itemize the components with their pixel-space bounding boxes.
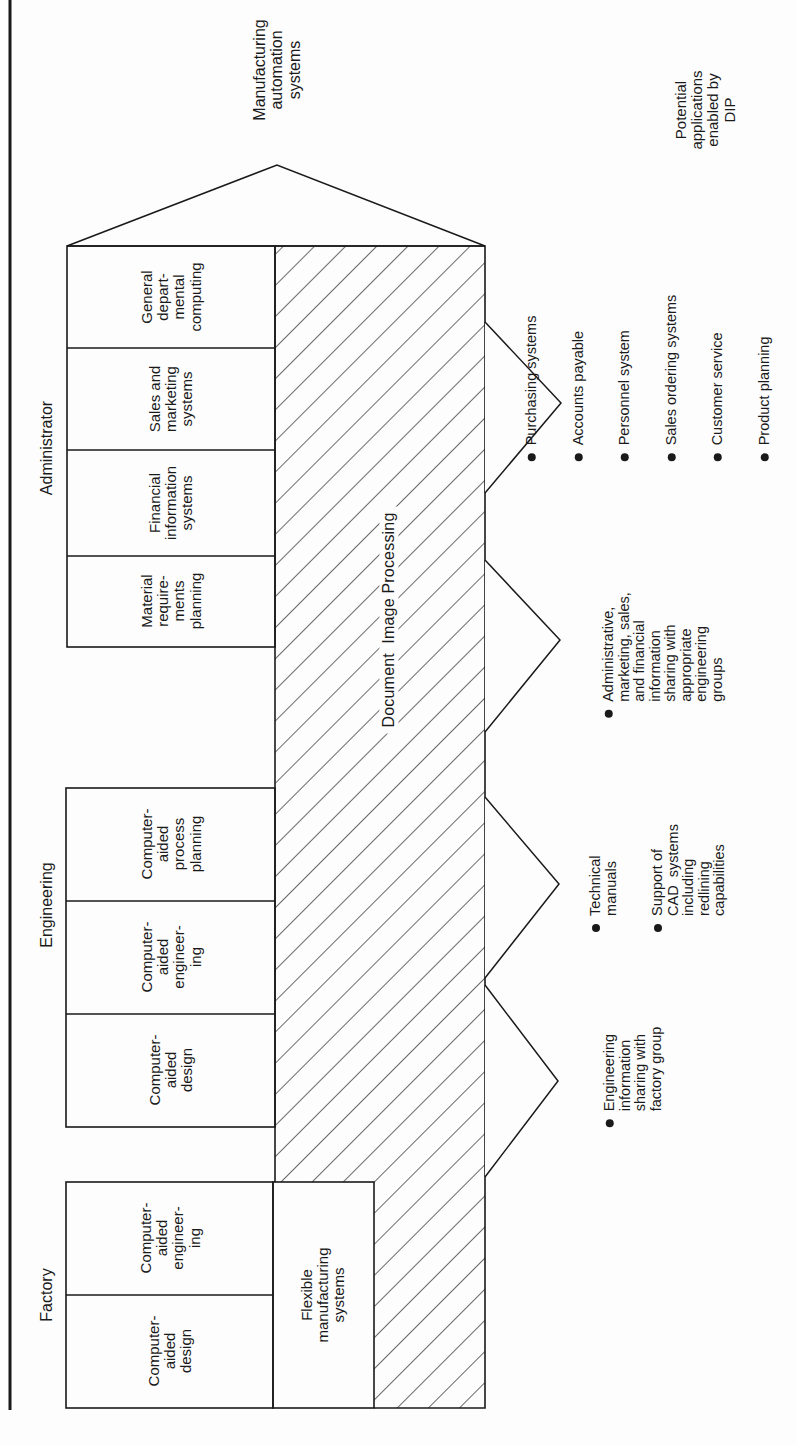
- box-financial-information-systems: Financial information systems: [147, 466, 196, 540]
- group-label-administrator: Administrator: [38, 401, 55, 495]
- bullet-icon: [654, 924, 662, 932]
- list-item: Engineering information sharing with fac…: [602, 1027, 664, 1128]
- list-item: Technical manuals: [588, 824, 619, 932]
- bullet-icon: [606, 1119, 614, 1127]
- bullet-icon: [528, 453, 536, 461]
- bullet-icon: [714, 453, 722, 461]
- list-item: Customer service: [710, 295, 726, 462]
- box-sales-marketing-systems: Sales and marketing systems: [147, 366, 196, 433]
- list-item: Accounts payable: [570, 295, 586, 462]
- applications-list-1: Purchasing systems Accounts payable Pers…: [493, 295, 788, 462]
- group-label-factory: Factory: [38, 1268, 55, 1321]
- box-eng-computer-aided-process-planning: Computer- aided process planning: [139, 809, 204, 880]
- applications-list-2: Administrative, marketing, sales, and fi…: [570, 592, 741, 718]
- group-label-engineering: Engineering: [38, 862, 55, 947]
- box-eng-computer-aided-engineering: Computer- aided engineer- ing: [139, 922, 204, 993]
- applications-list-4: Engineering information sharing with fac…: [571, 1027, 680, 1128]
- box-factory-computer-aided-engineering: Computer- aided engineer- ing: [138, 1203, 203, 1274]
- list-item: Product planning: [756, 295, 772, 462]
- roof-triangle: [67, 165, 485, 246]
- list-item: Sales ordering systems: [663, 295, 679, 462]
- dip-band-hatch: [275, 246, 485, 1408]
- document-image-processing-label: Document Image Processing: [379, 506, 398, 733]
- pointer-triangle-3: [485, 797, 559, 978]
- list-item: Purchasing systems: [524, 295, 540, 462]
- list-item: Support of CAD systems including redlini…: [650, 824, 728, 932]
- bullet-icon: [760, 453, 768, 461]
- pointer-triangle-4: [485, 985, 558, 1177]
- bullet-icon: [574, 453, 582, 461]
- box-material-requirements-planning: Material require- ments planning: [139, 573, 204, 630]
- bullet-icon: [621, 453, 629, 461]
- bullet-icon: [605, 710, 613, 718]
- bullet-icon: [592, 924, 600, 932]
- bullet-icon: [667, 453, 675, 461]
- box-flexible-manufacturing-systems: Flexible manufacturing systems: [299, 1247, 348, 1342]
- box-general-departmental-computing: General depart- mental computing: [139, 262, 204, 331]
- applications-list-3: Technical manuals Support of CAD systems…: [557, 824, 743, 932]
- box-factory-computer-aided-design: Computer- aided design: [146, 1316, 195, 1387]
- pointer-triangle-2: [485, 560, 560, 732]
- list-item: Personnel system: [617, 295, 633, 462]
- manufacturing-automation-label: Manufacturing automation systems: [251, 19, 303, 120]
- list-item: Administrative, marketing, sales, and fi…: [601, 592, 725, 718]
- box-eng-computer-aided-design: Computer- aided design: [147, 1035, 196, 1106]
- potential-applications-caption: Potential applications enabled by DIP: [673, 70, 738, 149]
